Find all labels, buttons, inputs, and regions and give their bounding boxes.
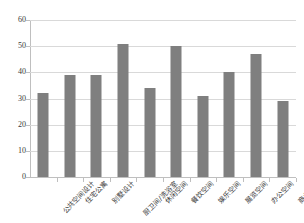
x-axis-tick-mark (83, 178, 84, 182)
bar-slot (30, 20, 57, 177)
bar[interactable] (224, 72, 235, 177)
y-axis-tick-label: 20 (2, 121, 26, 129)
y-axis-tick-mark (26, 72, 30, 73)
bar[interactable] (144, 88, 155, 177)
bar-slot (163, 20, 190, 177)
bar-slot (83, 20, 110, 177)
bar-slot (57, 20, 84, 177)
y-axis-tick-mark (26, 125, 30, 126)
x-axis-tick-mark (190, 178, 191, 182)
x-axis-category-label: 餐饮空间 (190, 180, 215, 205)
x-axis-category-label: 办公空间 (270, 180, 295, 205)
y-axis-tick-mark (26, 46, 30, 47)
bar-slot (190, 20, 217, 177)
bar-slot (269, 20, 296, 177)
x-axis-category-labels: 公共空间设计住宅公寓别墅设计厨卫间/洗浴室休闲空间餐饮空间娱乐空间展览空间办公空… (30, 180, 296, 223)
bar[interactable] (118, 44, 129, 177)
x-axis-tick-mark (296, 178, 297, 182)
x-axis-tick-mark (269, 178, 270, 182)
y-axis-tick-label: 40 (2, 68, 26, 76)
y-axis-tick-labels: 0102030405060 (0, 20, 26, 178)
y-axis-tick-mark (26, 99, 30, 100)
x-axis-tick-mark (110, 178, 111, 182)
bar-chart: 0102030405060 公共空间设计住宅公寓别墅设计厨卫间/洗浴室休闲空间餐… (0, 0, 304, 223)
x-axis-tick-mark (216, 178, 217, 182)
x-axis-category-label: 商业空间 (297, 180, 304, 205)
bars-container (30, 20, 296, 177)
x-axis-tick-mark (163, 178, 164, 182)
bar[interactable] (197, 96, 208, 177)
y-axis-tick-label: 30 (2, 95, 26, 103)
y-axis-tick-label: 0 (2, 173, 26, 181)
x-axis-category-label: 别墅设计 (111, 180, 136, 205)
bar-slot (243, 20, 270, 177)
y-axis-tick-mark (26, 177, 30, 178)
bar[interactable] (64, 75, 75, 177)
bar[interactable] (91, 75, 102, 177)
bar[interactable] (277, 101, 288, 177)
y-axis-tick-label: 10 (2, 147, 26, 155)
bar-slot (110, 20, 137, 177)
bar[interactable] (251, 54, 262, 177)
y-axis-tick-mark (26, 20, 30, 21)
bar-slot (136, 20, 163, 177)
bar-slot (216, 20, 243, 177)
x-axis-category-label: 展览空间 (244, 180, 269, 205)
x-axis-tick-mark (136, 178, 137, 182)
x-axis-category-label: 娱乐空间 (217, 180, 242, 205)
x-axis-tick-mark (57, 178, 58, 182)
bar[interactable] (38, 93, 49, 177)
y-axis-tick-label: 60 (2, 16, 26, 24)
y-axis-tick-mark (26, 151, 30, 152)
y-axis-tick-label: 50 (2, 42, 26, 50)
bar[interactable] (171, 46, 182, 177)
x-axis-tick-mark (243, 178, 244, 182)
